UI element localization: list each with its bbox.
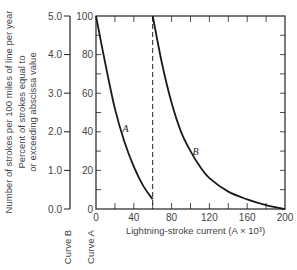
inner-y-tick-label: 60 — [82, 88, 94, 99]
inner-y-tick-label: 20 — [82, 165, 94, 176]
x-tick-label: 120 — [201, 212, 218, 223]
x-axis-title: Lightning-stroke current (A × 10³) — [126, 225, 265, 236]
outer-y-tick-label: 2.0 — [48, 126, 62, 137]
outer-y-tick-label: 3.0 — [48, 88, 62, 99]
curve-b-axis-caption: Curve B — [62, 230, 73, 264]
inner-y-tick-label: 40 — [82, 126, 94, 137]
x-tick-label: 40 — [128, 212, 140, 223]
curve-a-label: A — [121, 123, 129, 134]
plot-frame — [96, 16, 285, 209]
inner-y-tick-label: 80 — [82, 49, 94, 60]
chart-svg: 0.01.02.03.04.05.0 020406080100 04080120… — [0, 0, 297, 270]
inner-y-axis: 020406080100 — [76, 11, 285, 215]
outer-y-tick-label: 4.0 — [48, 49, 62, 60]
labels: ABLightning-stroke current (A × 10³)Numb… — [3, 11, 265, 265]
outer-y-axis: 0.01.02.03.04.05.0 — [48, 11, 70, 215]
curve-b — [153, 16, 285, 209]
outer-y-axis-title: Number of strokes per 100 miles of line … — [3, 11, 14, 214]
inner-y-axis-title-line2: or exceeding abscissa value — [27, 52, 38, 171]
outer-y-tick-label: 0.0 — [48, 204, 62, 215]
x-tick-label: 80 — [166, 212, 178, 223]
outer-y-tick-label: 1.0 — [48, 165, 62, 176]
inner-y-axis-title-line1: Percent of strokes equal to — [16, 55, 27, 168]
x-tick-label: 160 — [239, 212, 256, 223]
x-axis: 04080120160200 — [93, 16, 294, 223]
outer-y-tick-label: 5.0 — [48, 11, 62, 22]
curve-a-axis-caption: Curve A — [85, 229, 96, 263]
inner-y-tick-label: 100 — [76, 11, 93, 22]
curve-b-label: B — [192, 146, 198, 157]
x-tick-label: 0 — [93, 212, 99, 223]
curves — [96, 16, 285, 209]
curve-a — [96, 16, 153, 199]
x-tick-label: 200 — [277, 212, 294, 223]
